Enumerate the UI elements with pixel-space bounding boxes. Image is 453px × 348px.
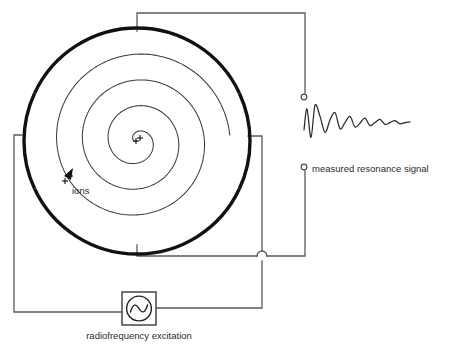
ion-packet-group: ions [62, 135, 143, 196]
rf-excitation-source[interactable] [122, 292, 156, 325]
bottom-electrode [35, 189, 240, 254]
wire-hop-arc [257, 251, 267, 256]
resonance-waveform-trace [304, 104, 410, 137]
icr-diagram-svg: ions measured resonance signal radiofreq… [0, 0, 453, 348]
wire-bottom-to-detection [267, 171, 305, 256]
radiofrequency-excitation-label: radiofrequency excitation [86, 330, 192, 341]
measured-resonance-signal-label: measured resonance signal [312, 163, 429, 174]
icr-diagram-canvas: ions measured resonance signal radiofreq… [0, 0, 453, 348]
left-electrode [24, 93, 35, 189]
wire-top-to-detection [137, 13, 305, 93]
top-electrode [35, 28, 240, 93]
resonance-signal-group: measured resonance signal [304, 104, 429, 174]
right-electrode [239, 93, 250, 189]
circuit-wiring [14, 13, 305, 312]
detection-terminal-pair [301, 94, 307, 170]
wire-left-electrode [14, 135, 122, 312]
wire-right-electrode-lower [156, 261, 262, 308]
terminal-lower[interactable] [301, 164, 307, 170]
ion-charge-plus-center-icon [133, 135, 143, 144]
ions-label: ions [72, 185, 90, 196]
terminal-upper[interactable] [301, 94, 307, 100]
